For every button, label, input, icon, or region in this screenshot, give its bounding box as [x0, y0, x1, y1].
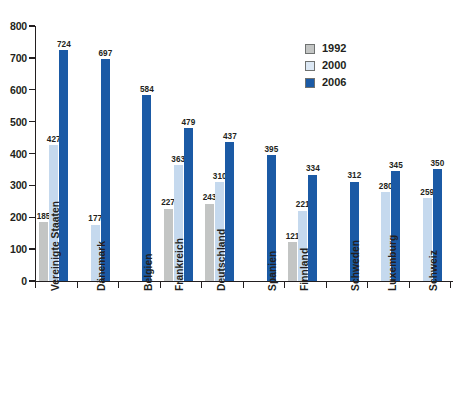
x-axis-tick	[160, 282, 161, 288]
x-axis-label-text: Luxemburg	[387, 235, 398, 291]
x-axis-label-text: Spanien	[267, 251, 278, 291]
bar-value-label: 697	[99, 50, 113, 58]
legend-swatch-1992	[305, 44, 315, 54]
bar-2006: 479	[184, 128, 193, 281]
x-axis-label-text: Schweiz	[428, 250, 439, 291]
x-axis-label-text: Vereinigte Staaten	[50, 201, 61, 291]
bar-chart: 0100200300400500600700800 18542772417769…	[0, 0, 455, 404]
y-axis-tick-label: 400	[0, 149, 27, 160]
bar-value-label: 479	[182, 119, 196, 127]
x-axis-tick	[35, 282, 36, 288]
y-axis-tick-label: 600	[0, 85, 27, 96]
x-axis-tick	[367, 282, 368, 288]
bar-value-label: 350	[431, 160, 445, 168]
y-axis-tick-label: 300	[0, 180, 27, 191]
bar-group: 395	[247, 26, 289, 281]
y-axis-tick-label: 100	[0, 244, 27, 255]
legend-label: 1992	[322, 43, 346, 54]
x-axis-tick	[201, 282, 202, 288]
bar-value-label: 334	[306, 165, 320, 173]
x-axis-label-text: Belgien	[143, 254, 154, 292]
legend-swatch-2006	[305, 78, 315, 88]
y-axis-tick-label: 700	[0, 53, 27, 64]
x-axis-tick	[118, 282, 119, 288]
y-axis-tick-label: 500	[0, 117, 27, 128]
x-axis-label-text: Dänemark	[96, 241, 107, 291]
bar-value-label: 345	[389, 162, 403, 170]
x-axis-label-text: Schweden	[350, 240, 361, 291]
legend-item-2006: 2006	[305, 75, 346, 90]
x-axis-label-text: Frankreich	[174, 238, 185, 291]
y-axis-tick-label: 0	[0, 276, 27, 287]
legend-swatch-2000	[305, 61, 315, 71]
bar-1992: 227	[164, 209, 173, 281]
bar-value-label: 395	[265, 146, 279, 154]
bar-value-label: 312	[348, 172, 362, 180]
y-axis-tick-label: 800	[0, 21, 27, 32]
bar-1992: 121	[288, 242, 297, 281]
bar-group: 259350	[413, 26, 455, 281]
legend-label: 2000	[322, 60, 346, 71]
x-axis-tick	[326, 282, 327, 288]
bar-group: 584	[122, 26, 164, 281]
legend-label: 2006	[322, 77, 346, 88]
y-axis-tick-label: 200	[0, 212, 27, 223]
x-axis-label-text: Deutschland	[216, 229, 227, 291]
bar-1992: 185	[39, 222, 48, 281]
chart-legend: 199220002006	[305, 41, 346, 92]
x-axis-tick	[243, 282, 244, 288]
bar-value-label: 724	[57, 41, 71, 49]
x-axis-tick	[409, 282, 410, 288]
bar-value-label: 584	[140, 86, 154, 94]
x-axis-tick	[284, 282, 285, 288]
legend-item-2000: 2000	[305, 58, 346, 73]
x-axis-tick	[450, 282, 451, 288]
x-axis-tick	[77, 282, 78, 288]
x-axis-label-text: Finnland	[299, 248, 310, 291]
bar-value-label: 437	[223, 133, 237, 141]
bar-1992: 243	[205, 204, 214, 281]
legend-item-1992: 1992	[305, 41, 346, 56]
